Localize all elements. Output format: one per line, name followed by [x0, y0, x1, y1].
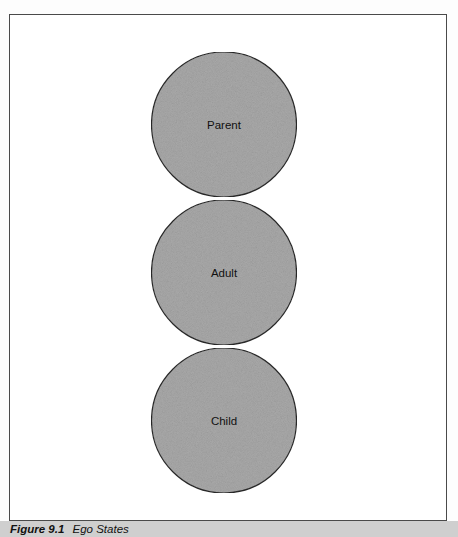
ego-state-label-child: Child	[211, 415, 237, 427]
ego-state-label-parent: Parent	[207, 119, 242, 131]
ego-state-child: Child	[152, 348, 297, 493]
ego-state-label-adult: Adult	[211, 267, 238, 279]
figure-title: Ego States	[73, 523, 129, 535]
ego-states-diagram: ParentAdultChild	[0, 0, 458, 537]
ego-state-parent: Parent	[152, 52, 297, 197]
figure-caption: Figure 9.1 Ego States	[10, 522, 129, 536]
ego-state-adult: Adult	[152, 200, 297, 345]
figure-number: Figure 9.1	[10, 523, 64, 535]
